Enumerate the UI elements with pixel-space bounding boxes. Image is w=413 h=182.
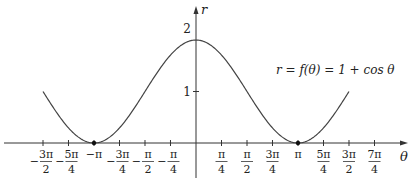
x-ticks: 3π2−5π4−−π3π4−π2−π4−π4π23π4π5π43π27π4 [30, 140, 382, 176]
x-tick: π4 [216, 140, 228, 176]
x-tick: 3π4 [265, 140, 279, 176]
svg-text:4: 4 [119, 163, 126, 176]
svg-text:4: 4 [218, 163, 225, 176]
svg-text:−π: −π [86, 148, 102, 161]
y-axis-label: r [201, 2, 208, 17]
svg-text:−: − [106, 155, 115, 168]
svg-text:π: π [170, 148, 177, 161]
x-tick: 3π2 [342, 140, 356, 176]
zero-point-marker [92, 141, 96, 145]
svg-text:7π: 7π [367, 148, 381, 161]
x-tick: 7π4 [367, 140, 381, 176]
svg-text:4: 4 [269, 163, 276, 176]
svg-text:2: 2 [144, 163, 151, 176]
svg-text:−: − [157, 155, 166, 168]
x-axis-arrow-icon [400, 141, 408, 146]
polar-function-graph: 3π2−5π4−−π3π4−π2−π4−π4π23π4π5π43π27π4 12… [0, 0, 413, 182]
svg-text:2: 2 [183, 22, 191, 36]
svg-text:4: 4 [68, 163, 75, 176]
function-annotation: r = f(θ) = 1 + cos θ [276, 63, 395, 77]
x-tick: 3π2− [30, 140, 53, 176]
x-tick: π4− [157, 140, 179, 176]
svg-text:π: π [243, 148, 250, 161]
y-ticks: 12 [183, 22, 199, 99]
svg-text:2: 2 [345, 163, 352, 176]
x-tick: π2− [132, 140, 154, 176]
svg-text:π: π [144, 148, 151, 161]
svg-text:−: − [30, 155, 39, 168]
x-tick: 5π4− [55, 140, 78, 176]
x-tick: 3π4− [106, 140, 129, 176]
y-tick: 1 [183, 85, 199, 99]
x-tick: π2 [241, 140, 253, 176]
svg-text:3π: 3π [265, 148, 279, 161]
x-axis-label: θ [400, 149, 408, 164]
x-tick: 5π4 [316, 140, 330, 176]
svg-text:2: 2 [244, 163, 251, 176]
svg-text:1: 1 [183, 85, 191, 99]
svg-text:3π: 3π [39, 148, 53, 161]
svg-text:3π: 3π [342, 148, 356, 161]
svg-text:−: − [55, 155, 64, 168]
y-tick: 2 [183, 22, 191, 36]
svg-text:5π: 5π [64, 148, 78, 161]
svg-text:4: 4 [320, 163, 327, 176]
svg-text:−: − [132, 155, 141, 168]
zero-point-marker [296, 141, 300, 145]
svg-text:5π: 5π [316, 148, 330, 161]
svg-text:2: 2 [43, 163, 50, 176]
svg-text:4: 4 [170, 163, 177, 176]
svg-text:π: π [218, 148, 225, 161]
svg-text:4: 4 [371, 163, 378, 176]
svg-text:π: π [294, 148, 301, 161]
y-axis-arrow-icon [194, 6, 199, 14]
svg-text:3π: 3π [115, 148, 129, 161]
